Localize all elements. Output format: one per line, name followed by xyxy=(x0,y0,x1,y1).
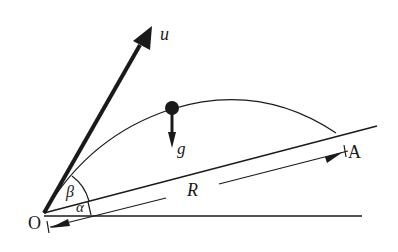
range-label: R xyxy=(186,180,198,200)
gravity-arrowhead-icon xyxy=(168,132,176,148)
beta-angle-arc xyxy=(72,176,89,201)
landing-point-label: A xyxy=(348,142,361,162)
alpha-angle-arc xyxy=(88,202,91,215)
range-line-right xyxy=(219,151,348,184)
incline-line xyxy=(44,126,377,213)
projectile-ball xyxy=(165,101,179,115)
range-arrowhead-left-icon xyxy=(50,219,70,228)
origin-label: O xyxy=(28,213,41,233)
beta-label: β xyxy=(65,183,74,201)
velocity-label: u xyxy=(160,24,169,44)
velocity-arrowhead-icon xyxy=(133,26,152,50)
projectile-incline-diagram: u g R O A β α xyxy=(0,0,398,252)
gravity-label: g xyxy=(177,139,186,158)
alpha-label: α xyxy=(76,199,85,215)
range-tick-left xyxy=(47,221,49,233)
range-arrowhead-right-icon xyxy=(325,152,343,163)
